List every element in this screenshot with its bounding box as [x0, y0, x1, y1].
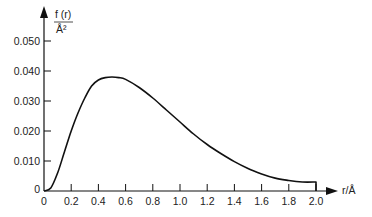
- y-axis-label-numerator: f (r): [55, 8, 71, 20]
- chart: 00.0100.0200.0300.0400.050 00.20.40.60.8…: [0, 0, 372, 217]
- y-ticks: 00.0100.0200.0300.0400.050: [14, 35, 51, 195]
- y-tick-label: 0.050: [14, 35, 40, 47]
- y-axis-arrow-icon: [40, 6, 48, 18]
- x-tick-label: 0.4: [91, 195, 106, 207]
- x-tick-label: 1.2: [200, 195, 215, 207]
- y-tick-label: 0.010: [14, 155, 40, 167]
- x-tick-label: 0.6: [118, 195, 133, 207]
- x-tick-label: 1.6: [254, 195, 269, 207]
- x-ticks: 00.20.40.60.81.01.21.41.61.82.0: [41, 184, 323, 207]
- y-tick-label: 0.020: [14, 125, 40, 137]
- y-axis-label-denominator: Å²: [56, 23, 67, 35]
- y-tick-label: 0.030: [14, 95, 40, 107]
- data-curve: [44, 77, 316, 191]
- x-tick-label: 1.0: [173, 195, 188, 207]
- x-axis-arrow-icon: [326, 187, 338, 195]
- x-tick-label: 1.8: [281, 195, 296, 207]
- y-tick-label: 0.040: [14, 65, 40, 77]
- x-tick-label: 2.0: [309, 195, 324, 207]
- x-tick-label: 0.2: [64, 195, 79, 207]
- x-axis-label: r/Å: [342, 184, 355, 196]
- y-tick-label: 0: [34, 183, 40, 195]
- x-tick-label: 1.4: [227, 195, 242, 207]
- x-tick-label: 0: [41, 195, 47, 207]
- x-tick-label: 0.8: [145, 195, 160, 207]
